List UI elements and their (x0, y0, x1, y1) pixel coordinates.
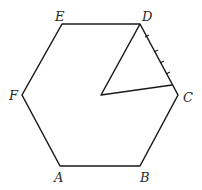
vertex-label-b: B (139, 170, 150, 185)
vertex-label-f: F (8, 88, 19, 103)
vertex-label-d: D (141, 9, 153, 24)
vertex-label-c: C (183, 90, 193, 105)
vertex-label-e: E (54, 9, 65, 24)
hexagon (22, 24, 178, 166)
hexagon-diagram: E D C B A F (0, 0, 202, 190)
inner-triangle (101, 24, 172, 95)
vertex-label-a: A (53, 170, 63, 185)
